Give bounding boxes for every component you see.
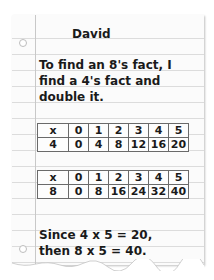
punch-hole-icon <box>19 245 27 253</box>
table-cell: 16 <box>109 185 129 199</box>
table-cell: 8 <box>38 185 69 199</box>
conclusion-text: Since 4 x 5 = 20, then 8 x 5 = 40. <box>39 227 199 259</box>
table-header-row: x 0 1 2 3 4 5 <box>38 124 189 138</box>
table-cell: 16 <box>149 138 169 152</box>
table-cell: 4 <box>149 124 169 138</box>
table-cell: 3 <box>129 124 149 138</box>
table-cell: 0 <box>69 171 89 185</box>
notebook-page: David To find an 8's fact, I find a 4's … <box>12 15 204 265</box>
table-cell: 0 <box>69 138 89 152</box>
table-cell: 20 <box>169 138 189 152</box>
table-cell: 4 <box>89 138 109 152</box>
student-name: David <box>72 27 111 41</box>
table-cell: 40 <box>169 185 189 199</box>
table-cell: 12 <box>129 138 149 152</box>
table-cell: 8 <box>89 185 109 199</box>
table-cell: x <box>38 171 69 185</box>
strategy-text: To find an 8's fact, I find a 4's fact a… <box>39 57 199 105</box>
conclusion-line-1: Since 4 x 5 = 20, <box>39 227 199 243</box>
table-row: 8 0 8 16 24 32 40 <box>38 185 189 199</box>
table-cell: 4 <box>38 138 69 152</box>
table-cell: 5 <box>169 171 189 185</box>
table-header-row: x 0 1 2 3 4 5 <box>38 171 189 185</box>
margin-line <box>35 15 36 265</box>
table-cell: 32 <box>149 185 169 199</box>
table-row: 4 0 4 8 12 16 20 <box>38 138 189 152</box>
punch-hole-icon <box>19 39 27 47</box>
conclusion-line-2: then 8 x 5 = 40. <box>39 243 199 259</box>
table-cell: 1 <box>89 171 109 185</box>
table-cell: 2 <box>109 171 129 185</box>
torn-edge-icon <box>12 259 204 271</box>
table-cell: 24 <box>129 185 149 199</box>
table-cell: 3 <box>129 171 149 185</box>
table-cell: 5 <box>169 124 189 138</box>
table-cell: 8 <box>109 138 129 152</box>
table-cell: 4 <box>149 171 169 185</box>
table-cell: x <box>38 124 69 138</box>
fours-table: x 0 1 2 3 4 5 4 0 4 8 12 16 20 <box>37 123 189 152</box>
eights-table: x 0 1 2 3 4 5 8 0 8 16 24 32 40 <box>37 170 189 199</box>
table-cell: 0 <box>69 124 89 138</box>
table-cell: 1 <box>89 124 109 138</box>
table-cell: 2 <box>109 124 129 138</box>
table-cell: 0 <box>69 185 89 199</box>
